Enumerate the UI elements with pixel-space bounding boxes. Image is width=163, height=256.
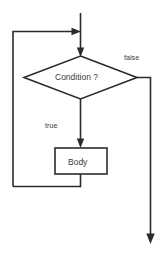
loop-back-bottom-line (13, 174, 81, 187)
loop-back-edge-arrowhead (72, 28, 82, 35)
true-branch-edge-arrowhead (77, 139, 84, 149)
flowchart-canvas: Condition ? Body false true (0, 0, 163, 256)
flowchart-diagram-svg (0, 0, 163, 256)
condition-node-label: Condition ? (55, 73, 98, 82)
false-branch-edge-arrowhead (146, 234, 154, 245)
body-node-label: Body (68, 158, 87, 167)
false-branch-label: false (124, 54, 139, 61)
true-branch-label: true (45, 122, 57, 129)
false-branch-edge-line (137, 78, 151, 239)
